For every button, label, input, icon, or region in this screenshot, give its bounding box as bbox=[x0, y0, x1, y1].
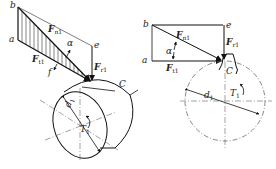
torque-arrow-right bbox=[240, 84, 244, 95]
point-b-label: b bbox=[10, 0, 16, 10]
point-a-label-right: a bbox=[142, 55, 147, 65]
ft1-label-right: Ft1 bbox=[165, 63, 179, 74]
left-view: b a e f Fn1 Ft1 Fr1 α d1 T1 C bbox=[9, 0, 138, 166]
point-c-label-right: C bbox=[226, 66, 233, 76]
t1-label-right: T1 bbox=[230, 88, 240, 99]
force-fn1-arrow-right bbox=[152, 25, 221, 60]
point-e-label-right: e bbox=[226, 20, 231, 30]
edge-be bbox=[18, 7, 92, 46]
point-a-label: a bbox=[9, 34, 14, 44]
point-e-label: e bbox=[94, 40, 99, 50]
fr1-label-right: Fr1 bbox=[225, 37, 239, 48]
t1-label-left: T1 bbox=[80, 124, 90, 135]
ft1-label: Ft1 bbox=[31, 54, 45, 65]
point-f-label: f bbox=[47, 67, 53, 77]
fn1-label-right: Fn1 bbox=[175, 30, 190, 41]
diameter-arrow-right bbox=[188, 90, 259, 114]
alpha-arrow-right bbox=[174, 42, 176, 50]
point-c-label-left: C bbox=[119, 79, 126, 89]
d1-label-right: d1 bbox=[204, 90, 214, 101]
point-b-label-right: b bbox=[143, 19, 149, 29]
fr1-label: Fr1 bbox=[93, 62, 107, 73]
alpha-arrow-right-2 bbox=[173, 52, 174, 59]
alpha-arrow bbox=[66, 50, 70, 58]
right-view: b a e Fn1 Ft1 Fr1 α C d1 T1 bbox=[142, 19, 272, 150]
alpha-label-right: α bbox=[166, 46, 172, 56]
f-arrow bbox=[54, 64, 57, 70]
alpha-label: α bbox=[67, 38, 73, 48]
torque-arrow bbox=[86, 116, 90, 128]
gear-cylinder bbox=[44, 80, 138, 166]
fn1-label: Fn1 bbox=[47, 24, 62, 35]
gear-force-diagram: b a e f Fn1 Ft1 Fr1 α d1 T1 C bbox=[0, 0, 276, 169]
force-triangle-hatch bbox=[22, 0, 86, 90]
